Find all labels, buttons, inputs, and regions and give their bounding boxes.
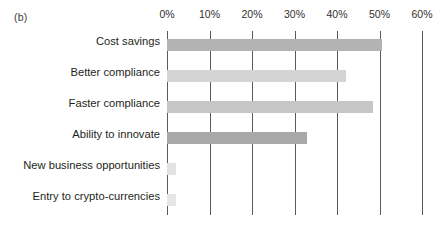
plot-area: 0%10%20%30%40%50%60%: [167, 31, 422, 215]
gridline-50: [380, 31, 381, 215]
panel-label: (b): [14, 11, 27, 23]
tick-label-60: 60%: [411, 8, 432, 20]
tick-label-10: 10%: [199, 8, 220, 20]
category-label-entry-to-crypto-currencies: Entry to crypto-currencies: [33, 190, 160, 202]
gridline-20: [252, 31, 253, 215]
tick-label-40: 40%: [326, 8, 347, 20]
gridline-0: [167, 31, 168, 215]
bar-new-business-opportunities[interactable]: [167, 163, 176, 175]
bar-entry-to-crypto-currencies[interactable]: [167, 194, 176, 206]
category-axis-labels: Cost savings Better compliance Faster co…: [0, 31, 160, 215]
category-label-faster-compliance: Faster compliance: [69, 97, 160, 109]
gridline-60: [422, 31, 423, 215]
bar-cost-savings[interactable]: [167, 39, 382, 51]
category-label-ability-to-innovate: Ability to innovate: [72, 128, 160, 140]
gridline-10: [210, 31, 211, 215]
tick-label-0: 0%: [159, 8, 174, 20]
gridline-40: [337, 31, 338, 215]
bar-faster-compliance[interactable]: [167, 101, 373, 113]
chart-figure: (b) Cost savings Better compliance Faste…: [0, 0, 443, 225]
category-label-cost-savings: Cost savings: [96, 35, 160, 47]
category-label-better-compliance: Better compliance: [70, 66, 160, 78]
bar-better-compliance[interactable]: [167, 70, 346, 82]
tick-label-20: 20%: [241, 8, 262, 20]
gridline-30: [295, 31, 296, 215]
bar-ability-to-innovate[interactable]: [167, 132, 307, 144]
tick-label-30: 30%: [284, 8, 305, 20]
category-label-new-business-opportunities: New business opportunities: [23, 159, 160, 171]
tick-label-50: 50%: [369, 8, 390, 20]
